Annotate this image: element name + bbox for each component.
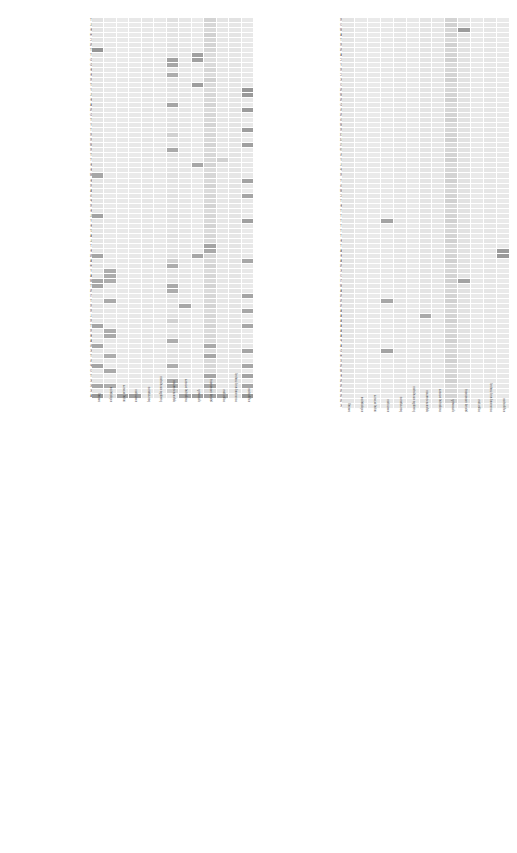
column-label: exfiltration — [502, 398, 506, 412]
column-label: overall — [97, 393, 101, 402]
column-label: exploitation — [360, 397, 364, 412]
heatmap-figure: ULTRAVIOLETVEILAVALANCHESHARP WRATHARCMI… — [0, 0, 517, 853]
column-labels-right: overallexploitationinitial accessexecuti… — [342, 412, 510, 487]
column-label: lateral movement — [209, 379, 213, 402]
column-label: privilege escalation — [412, 387, 416, 413]
column-label: defense evasion — [172, 380, 176, 402]
heatmap-grid-left[interactable] — [92, 18, 254, 399]
column-label: command and control — [234, 373, 238, 402]
column-label: persistence — [399, 397, 403, 412]
column-label: overall — [347, 403, 351, 412]
column-label: discovery — [197, 390, 201, 403]
column-label: credential access — [184, 379, 188, 402]
column-label: defense evasion — [425, 390, 429, 412]
column-labels-left: overallexploitationinitial accessexecuti… — [92, 402, 254, 477]
column-label: exfiltration — [247, 388, 251, 402]
column-label: command and control — [489, 384, 493, 413]
column-label: initial access — [373, 395, 377, 412]
column-label: exploitation — [109, 387, 113, 402]
column-label: privilege escalation — [159, 376, 163, 402]
column-label: execution — [134, 389, 138, 402]
column-label: collection — [477, 400, 481, 413]
heatmap-grid-right[interactable] — [342, 18, 510, 409]
column-label: collection — [222, 390, 226, 403]
grid-wrap-left[interactable] — [92, 18, 254, 399]
row-labels-right: SHADOW BROKERDARK HALOSOLAR STORMSILVER … — [262, 18, 338, 409]
column-label: credential access — [438, 389, 442, 412]
row-labels-left: ULTRAVIOLETVEILAVALANCHESHARP WRATHARCMI… — [0, 18, 88, 399]
heatmap-panel-left: ULTRAVIOLETVEILAVALANCHESHARP WRATHARCMI… — [0, 0, 262, 853]
heatmap-panel-right: SHADOW BROKERDARK HALOSOLAR STORMSILVER … — [262, 0, 517, 853]
column-label: lateral movement — [464, 389, 468, 412]
grid-wrap-right[interactable] — [342, 18, 510, 409]
column-label: initial access — [122, 385, 126, 402]
column-label: persistence — [147, 387, 151, 402]
column-label: discovery — [451, 400, 455, 413]
column-label: execution — [386, 399, 390, 412]
